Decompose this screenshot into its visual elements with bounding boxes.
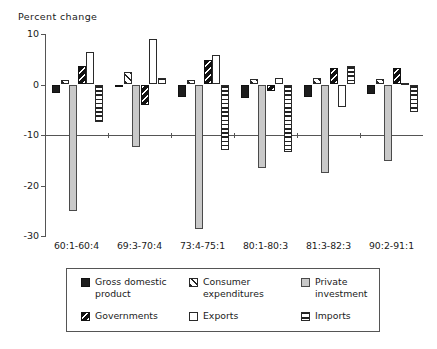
- group-separator: [297, 133, 298, 138]
- bar-solid-black: [178, 85, 186, 97]
- bar-solid-gray: [69, 85, 77, 211]
- bar-solid-black: [115, 85, 123, 88]
- legend-label: Exports: [203, 310, 273, 322]
- bar-diagonal-hatch-back-dark: [393, 68, 401, 84]
- bar-solid-black: [367, 85, 375, 95]
- bar-diagonal-hatch-back-dark: [204, 60, 212, 85]
- x-axis-label: 80:1-80:3: [234, 240, 297, 251]
- group-separator: [171, 133, 172, 138]
- bar-horizontal-stripes: [347, 66, 355, 84]
- y-tick-label: -20: [5, 180, 39, 191]
- group-separator: [234, 133, 235, 138]
- bar-solid-gray: [132, 85, 140, 147]
- bar-solid-black: [304, 85, 312, 97]
- group-separator: [108, 133, 109, 138]
- bar-white-outline: [275, 78, 283, 85]
- y-tick-label: -30: [5, 230, 39, 241]
- bar-diagonal-hatch-back-dark: [330, 68, 338, 85]
- legend-label: Consumer expenditures: [203, 276, 289, 299]
- solid-black-swatch: [81, 278, 90, 287]
- y-tick-label: -10: [5, 129, 39, 140]
- hatch-back-swatch: [81, 312, 90, 321]
- bar-diagonal-hatch-forward: [124, 72, 132, 84]
- white-outline-swatch: [189, 312, 198, 321]
- bar-horizontal-stripes: [158, 78, 166, 84]
- bar-diagonal-hatch-forward: [61, 80, 69, 84]
- x-axis-label: 90:2-91:1: [360, 240, 423, 251]
- y-tick-label: 0: [5, 79, 39, 90]
- x-axis-label: 60:1-60:4: [45, 240, 108, 251]
- bar-white-outline: [212, 55, 220, 84]
- x-axis-label: 73:4-75:1: [171, 240, 234, 251]
- y-tick-mark: [41, 236, 46, 237]
- bar-horizontal-stripes: [284, 85, 292, 153]
- bar-solid-black: [241, 85, 249, 99]
- y-tick-mark: [41, 135, 46, 136]
- bar-horizontal-stripes: [95, 85, 103, 122]
- y-tick-label: 10: [5, 28, 39, 39]
- bar-solid-gray: [195, 85, 203, 229]
- x-axis-label: 69:3-70:4: [108, 240, 171, 251]
- bar-white-outline: [401, 83, 409, 85]
- y-tick-mark: [41, 34, 46, 35]
- bar-horizontal-stripes: [221, 85, 229, 151]
- chart-legend: Gross domestic productConsumer expenditu…: [66, 268, 380, 332]
- bar-diagonal-hatch-forward: [250, 79, 258, 85]
- chart-figure: Percent change 100-10-20-30 60:1-60:469:…: [0, 0, 437, 349]
- group-separator: [360, 133, 361, 138]
- bar-diagonal-hatch-forward: [187, 80, 195, 85]
- legend-label: Gross domestic product: [95, 276, 175, 299]
- plot-area: 100-10-20-30: [45, 34, 423, 236]
- bar-white-outline: [86, 52, 94, 85]
- bar-diagonal-hatch-forward: [313, 78, 321, 84]
- bar-horizontal-stripes: [410, 85, 418, 112]
- y-tick-mark: [41, 85, 46, 86]
- horizontal-stripes-swatch: [301, 312, 310, 321]
- bar-solid-black: [52, 85, 60, 93]
- bar-white-outline: [149, 39, 157, 84]
- bar-diagonal-hatch-back-dark: [141, 85, 149, 105]
- legend-label: Governments: [95, 310, 187, 322]
- bar-diagonal-hatch-forward: [376, 79, 384, 84]
- bar-solid-gray: [321, 85, 329, 173]
- legend-label: Private investment: [315, 276, 393, 299]
- bar-solid-gray: [258, 85, 266, 168]
- bar-white-outline: [338, 85, 346, 107]
- bar-diagonal-hatch-back-dark: [78, 66, 86, 85]
- legend-label: Imports: [315, 310, 385, 322]
- bar-diagonal-hatch-back-dark: [267, 85, 275, 91]
- hatch-forward-swatch: [189, 278, 198, 287]
- solid-gray-swatch: [301, 278, 310, 287]
- x-axis-label: 81:3-82:3: [297, 240, 360, 251]
- y-tick-mark: [41, 186, 46, 187]
- bar-solid-gray: [384, 85, 392, 161]
- y-axis-title: Percent change: [18, 11, 97, 22]
